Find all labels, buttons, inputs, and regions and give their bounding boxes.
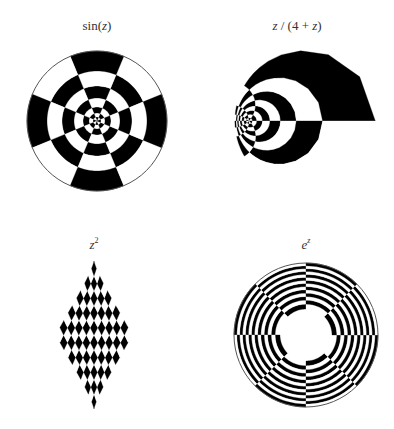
plot-exp [0,0,394,429]
